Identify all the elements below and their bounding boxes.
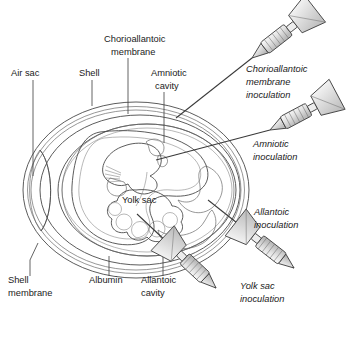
- label-shell-membrane-line1: Shell: [8, 275, 29, 285]
- figure-canvas: Air sac Shell Chorioallantoic membrane A…: [0, 0, 346, 338]
- label-cam-inoculation-line3: inoculation: [246, 90, 290, 100]
- label-cam-inoculation-line1: Chorioallantoic: [246, 64, 308, 74]
- label-albumin: Albumin: [89, 275, 123, 285]
- label-chorioallantoic-membrane-line2: membrane: [111, 47, 155, 57]
- label-yolk-sac-inoculation-line1: Yolk sac: [240, 281, 275, 291]
- leader-shell-membrane: [30, 243, 38, 276]
- label-allantoic-inoculation-line2: inoculation: [254, 220, 298, 230]
- label-amniotic-inoculation-line2: inoculation: [253, 152, 297, 162]
- amniotic-cavity-inner-line: [79, 137, 201, 239]
- egg-inoculation-diagram: Air sac Shell Chorioallantoic membrane A…: [0, 0, 346, 338]
- label-allantoic-cavity-line2: cavity: [141, 288, 165, 298]
- label-allantoic-inoculation-line1: Allantoic: [253, 207, 289, 217]
- label-cam-inoculation-line2: membrane: [246, 77, 290, 87]
- label-chorioallantoic-membrane-line1: Chorioallantoic: [104, 34, 166, 44]
- label-shell-membrane-line2: membrane: [8, 288, 52, 298]
- embryo-limb-bud: [107, 178, 126, 196]
- leader-lines: [30, 58, 164, 276]
- embryo-wing-striations: [105, 166, 121, 182]
- label-allantoic-cavity-line1: Allantoic: [141, 275, 176, 285]
- air-sac-boundary: [40, 150, 51, 231]
- label-amniotic-inoculation-line1: Amniotic: [252, 139, 289, 149]
- label-amniotic-cavity-line2: cavity: [155, 81, 179, 91]
- needle-chorioallantoic: [176, 58, 252, 118]
- label-amniotic-cavity-line1: Amniotic: [151, 68, 187, 78]
- egg-cross-section: [23, 102, 249, 278]
- label-air-sac: Air sac: [11, 68, 40, 78]
- label-shell: Shell: [79, 68, 100, 78]
- label-yolk-sac-inoculation-line2: inoculation: [240, 294, 284, 304]
- label-yolk-sac: Yolk sac: [122, 195, 157, 205]
- amniotic-cavity-region: [72, 131, 208, 245]
- syringe-chorioallantoic: [242, 0, 326, 71]
